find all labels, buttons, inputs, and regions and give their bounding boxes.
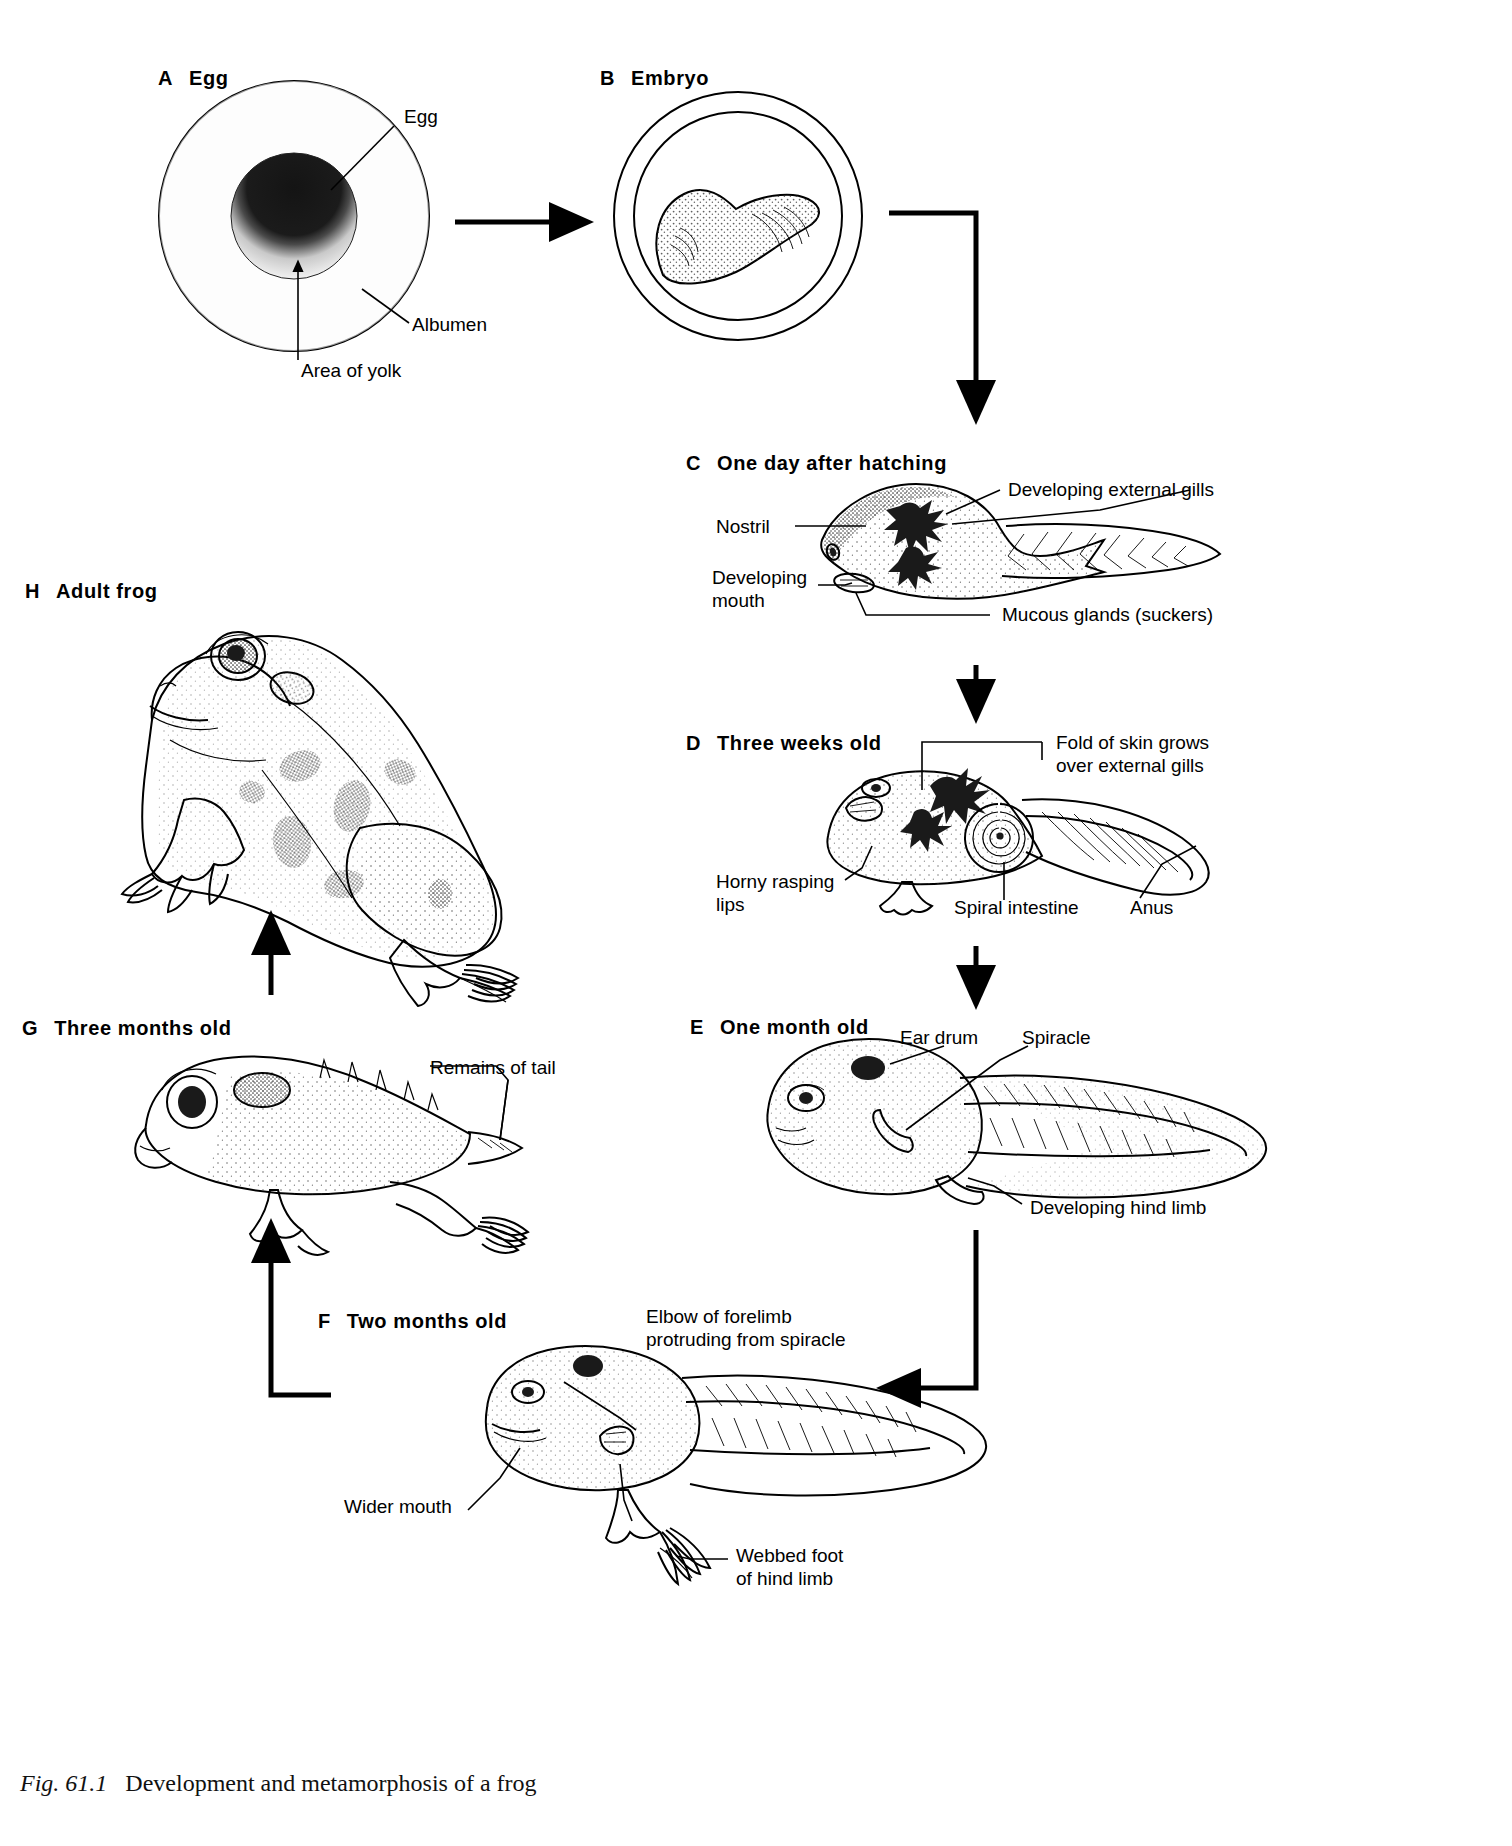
stage-title-e: One month old — [720, 1016, 869, 1038]
annotation-fold-of-skin-line2: over external gills — [1056, 754, 1204, 777]
stage-title-d: Three weeks old — [717, 732, 882, 754]
stage-label-b: BEmbryo — [600, 67, 709, 90]
art-stage-g-froglet — [135, 1056, 528, 1254]
art-stage-b-embryo — [614, 92, 862, 340]
annotation-developing-mouth-line2: mouth — [712, 589, 765, 612]
figure-caption: Fig. 61.1Development and metamorphosis o… — [20, 1770, 537, 1797]
stage-letter-b: B — [600, 67, 615, 90]
annotation-horny-rasping-lips-line1: Horny rasping — [716, 870, 834, 893]
annotation-fold-of-skin-line1: Fold of skin grows — [1056, 731, 1209, 754]
annotation-nostril: Nostril — [716, 515, 770, 538]
stage-letter-g: G — [22, 1017, 38, 1040]
figure-caption-text: Development and metamorphosis of a frog — [125, 1770, 536, 1796]
annotation-ear-drum: Ear drum — [900, 1026, 978, 1049]
flow-arrow-b-c — [889, 213, 976, 415]
annotation-developing-mouth-line1: Developing — [712, 566, 807, 589]
stage-title-c: One day after hatching — [717, 452, 947, 474]
annotation-spiral-intestine: Spiral intestine — [954, 896, 1079, 919]
annotation-webbed-foot-line1: Webbed foot — [736, 1544, 843, 1567]
stage-title-a: Egg — [189, 67, 229, 89]
annotation-albumen: Albumen — [412, 313, 487, 336]
annotation-webbed-foot-line2: of hind limb — [736, 1567, 833, 1590]
stage-letter-f: F — [318, 1310, 331, 1333]
annotation-egg: Egg — [404, 105, 438, 128]
annotation-horny-rasping-lips-line2: lips — [716, 893, 745, 916]
annotation-spiracle: Spiracle — [1022, 1026, 1091, 1049]
flow-arrow-e-f — [886, 1230, 976, 1388]
stage-title-f: Two months old — [347, 1310, 507, 1332]
stage-label-a: AEgg — [158, 67, 229, 90]
annotation-developing-external-gills: Developing external gills — [1008, 478, 1214, 501]
art-stage-a-egg — [159, 81, 429, 360]
annotation-anus: Anus — [1130, 896, 1173, 919]
art-stage-e-tadpole — [767, 1039, 1266, 1204]
flow-arrows — [271, 213, 976, 1395]
stage-label-f: FTwo months old — [318, 1310, 507, 1333]
stage-title-b: Embryo — [631, 67, 709, 89]
figure-page: AEgg BEmbryo COne day after hatching DTh… — [0, 0, 1512, 1846]
annotation-elbow-of-forelimb-line2: protruding from spiracle — [646, 1328, 846, 1351]
stage-label-e: EOne month old — [690, 1016, 869, 1039]
figure-number: Fig. 61.1 — [20, 1770, 107, 1796]
annotation-wider-mouth: Wider mouth — [344, 1495, 452, 1518]
annotation-mucous-glands: Mucous glands (suckers) — [1002, 603, 1213, 626]
annotation-remains-of-tail: Remains of tail — [430, 1056, 556, 1079]
art-stage-h-adult-frog — [122, 632, 518, 1006]
stage-label-h: HAdult frog — [25, 580, 158, 603]
stage-label-d: DThree weeks old — [686, 732, 882, 755]
stage-label-c: COne day after hatching — [686, 452, 947, 475]
stage-label-g: GThree months old — [22, 1017, 232, 1040]
stage-letter-h: H — [25, 580, 40, 603]
stage-letter-e: E — [690, 1016, 704, 1039]
stage-letter-d: D — [686, 732, 701, 755]
stage-letter-a: A — [158, 67, 173, 90]
annotation-elbow-of-forelimb-line1: Elbow of forelimb — [646, 1305, 792, 1328]
annotation-developing-hind-limb: Developing hind limb — [1030, 1196, 1206, 1219]
stage-title-h: Adult frog — [56, 580, 158, 602]
annotation-area-of-yolk: Area of yolk — [301, 359, 401, 382]
art-stage-f-tadpole — [468, 1346, 986, 1584]
art-stage-c-tadpole — [795, 484, 1220, 615]
stage-title-g: Three months old — [54, 1017, 231, 1039]
stage-letter-c: C — [686, 452, 701, 475]
